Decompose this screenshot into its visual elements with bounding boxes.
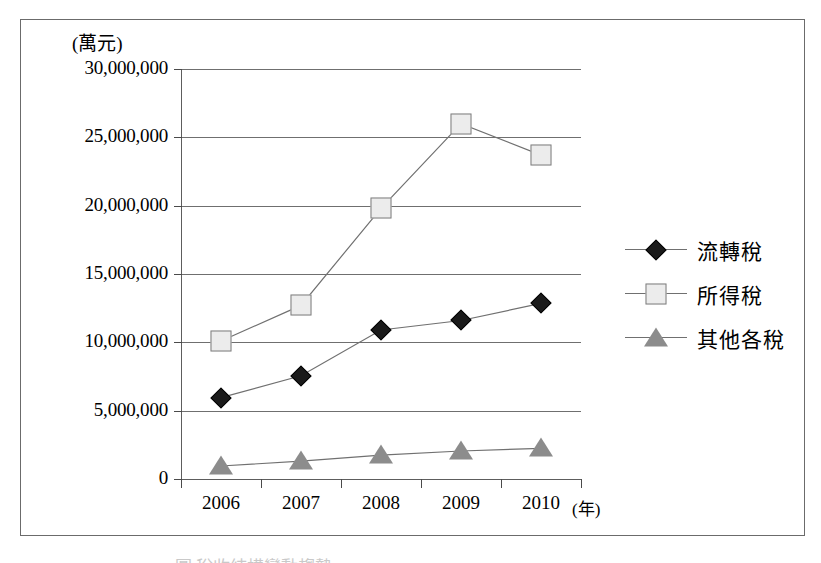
y-axis-tick — [174, 137, 182, 138]
y-axis-tick-label: 25,000,000 — [84, 126, 168, 145]
diamond-marker-icon — [645, 239, 666, 260]
data-point — [301, 305, 322, 326]
x-axis-tick — [421, 479, 422, 488]
y-axis-tick-label: 5,000,000 — [94, 400, 168, 419]
legend-item[interactable]: 其他各稅 — [625, 316, 795, 360]
data-point — [381, 455, 405, 474]
data-point — [461, 451, 485, 470]
x-axis-tick — [341, 479, 342, 488]
data-point — [221, 466, 245, 485]
triangle-marker-icon — [449, 441, 473, 460]
square-marker-icon — [531, 145, 552, 166]
data-point — [461, 320, 476, 335]
gridline — [181, 411, 581, 412]
y-axis-tick — [174, 342, 182, 343]
x-axis-tick — [181, 479, 182, 488]
gridline — [181, 69, 581, 70]
data-point — [541, 155, 562, 176]
y-axis-unit-label: (萬元) — [72, 28, 123, 55]
legend-symbol — [625, 283, 687, 305]
data-point — [541, 448, 565, 467]
triangle-marker-icon — [369, 445, 393, 464]
gridline — [181, 137, 581, 138]
legend-label: 所得稅 — [687, 279, 763, 309]
triangle-marker-icon — [644, 328, 668, 347]
y-axis-tick — [174, 411, 182, 412]
legend-item[interactable]: 所得稅 — [625, 272, 795, 316]
gridline — [181, 274, 581, 275]
data-point — [221, 341, 242, 362]
x-axis-tick-label: 2007 — [266, 492, 336, 514]
data-point — [541, 303, 556, 318]
legend-label: 其他各稅 — [687, 323, 785, 353]
x-axis-unit-label: (年) — [572, 495, 600, 520]
legend-symbol — [625, 239, 687, 261]
y-axis-tick — [174, 206, 182, 207]
x-axis-tick-label: 2009 — [426, 492, 496, 514]
x-axis-tick-label: 2006 — [186, 492, 256, 514]
y-axis-tick-label: 30,000,000 — [84, 58, 168, 77]
square-marker-icon — [451, 113, 472, 134]
y-axis-tick — [174, 274, 182, 275]
legend-item[interactable]: 流轉稅 — [625, 228, 795, 272]
x-axis-tick — [581, 479, 582, 488]
triangle-marker-icon — [529, 438, 553, 457]
data-point — [221, 398, 236, 413]
chart-legend: 流轉稅所得稅其他各稅 — [625, 228, 795, 360]
data-point — [461, 124, 482, 145]
y-axis-tick-label: 15,000,000 — [84, 263, 168, 282]
y-axis-tick-label: 0 — [159, 468, 168, 487]
x-axis-tick — [261, 479, 262, 488]
square-marker-icon — [371, 198, 392, 219]
data-point — [301, 461, 325, 480]
x-axis-tick-label: 2008 — [346, 492, 416, 514]
square-marker-icon — [291, 295, 312, 316]
y-axis-tick-label: 20,000,000 — [84, 195, 168, 214]
square-marker-icon — [646, 284, 667, 305]
data-point — [381, 330, 396, 345]
data-point — [381, 208, 402, 229]
figure-caption: 圖 稅收結構變動趨勢 — [175, 553, 645, 563]
y-axis-tick — [174, 69, 182, 70]
x-axis-tick-label: 2010 — [506, 492, 576, 514]
y-axis-tick-label: 10,000,000 — [84, 331, 168, 350]
square-marker-icon — [211, 330, 232, 351]
triangle-marker-icon — [289, 451, 313, 470]
triangle-marker-icon — [209, 456, 233, 475]
legend-symbol — [625, 327, 687, 349]
x-axis-tick — [501, 479, 502, 488]
legend-label: 流轉稅 — [687, 235, 763, 265]
data-point — [301, 376, 316, 391]
